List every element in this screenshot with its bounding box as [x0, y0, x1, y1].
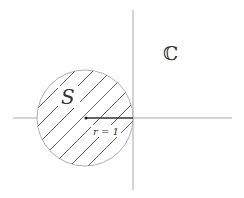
plane-label-c: ℂ	[163, 42, 178, 64]
set-label-s: S	[61, 85, 75, 109]
radius-label: r = 1	[93, 126, 119, 137]
complex-plane-diagram: S ℂ r = 1	[0, 0, 244, 198]
center-point	[84, 116, 87, 119]
